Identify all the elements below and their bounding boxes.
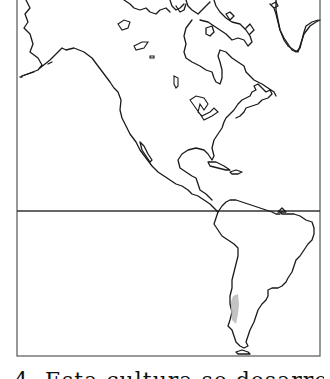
- great-bear-lake: [118, 20, 130, 30]
- lake-winnipeg: [174, 76, 178, 88]
- map-frame: [17, 0, 320, 356]
- hispaniola: [230, 170, 242, 174]
- arctic-islands-coastline: [170, 0, 234, 36]
- question-caption: 4. Esta cultura se desarrolló en el: [14, 366, 324, 379]
- cuba: [208, 162, 230, 170]
- south-america-coastline: [214, 208, 314, 348]
- great-lakes: [190, 96, 218, 120]
- aleutian-islands: [20, 62, 52, 77]
- lake-athabasca: [150, 56, 154, 58]
- map-figure: 4. Esta cultura se desarrolló en el: [0, 0, 330, 379]
- north-america-coastline: [22, 0, 318, 214]
- great-slave-lake: [134, 42, 148, 50]
- tierra-del-fuego: [236, 350, 250, 354]
- highlighted-region-chile: [231, 294, 239, 324]
- americas-outline-map: [0, 0, 330, 379]
- greenland-coastline: [276, 0, 320, 52]
